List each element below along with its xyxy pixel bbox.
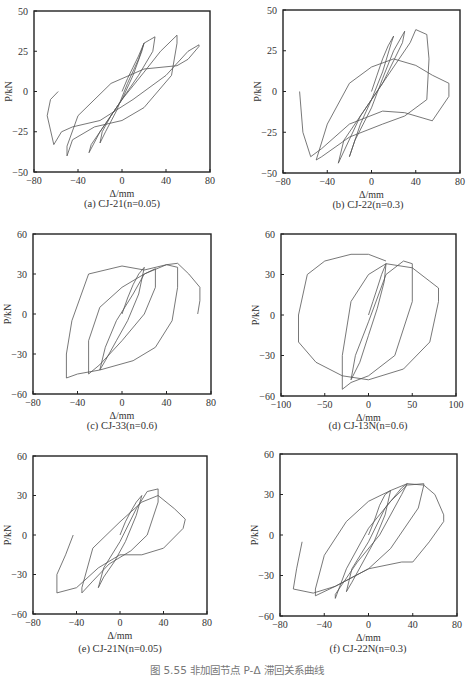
y-axis-label: P/kN: [2, 525, 13, 546]
y-axis-label: P/kN: [3, 81, 14, 102]
y-tick-label: −25: [12, 126, 28, 137]
y-tick-label: 25: [18, 46, 28, 57]
x-tick-label: 0: [120, 397, 125, 408]
x-tick-label: 0: [120, 175, 125, 186]
chart-plot: −80−4004080−60−3003060Δ/mmP/kN: [0, 440, 237, 660]
chart-plot: −100−50050100−60−3003060Δ/mmP/kN: [237, 220, 474, 442]
y-axis-label: P/kN: [250, 305, 261, 326]
chart-plot: −80−4004080−60−3003060Δ/mmP/kN: [0, 220, 237, 442]
chart-caption: (e) CJ-21N(n=0.05): [0, 643, 240, 654]
x-tick-label: 0: [366, 399, 371, 410]
y-tick-label: −25: [261, 127, 277, 138]
y-tick-label: 50: [267, 5, 277, 16]
x-tick-label: −80: [25, 617, 41, 628]
y-tick-label: −30: [11, 569, 27, 580]
x-tick-label: 0: [118, 617, 123, 628]
y-tick-label: −60: [11, 389, 27, 400]
chart-panel-f: −80−4004080−60−3003060Δ/mmP/kN (f) CJ-22…: [237, 440, 474, 660]
x-tick-label: 100: [449, 399, 464, 410]
chart-panel-e: −80−4004080−60−3003060Δ/mmP/kN (e) CJ-21…: [0, 440, 237, 660]
y-tick-label: −60: [11, 609, 27, 620]
chart-caption: (d) CJ-13N(n=0.6): [237, 420, 474, 431]
x-tick-label: 0: [369, 176, 374, 187]
figure-caption: 图 5.55 非加固节点 P-Δ 滞回关系曲线: [0, 662, 474, 677]
y-tick-label: 25: [267, 45, 277, 56]
x-tick-label: 80: [205, 175, 215, 186]
y-tick-label: 60: [17, 451, 27, 462]
hysteresis-curve: [66, 263, 200, 378]
chart-caption: (c) CJ-33(n=0.6): [0, 420, 244, 431]
y-tick-label: −30: [258, 570, 274, 581]
x-axis-label: Δ/mm: [356, 632, 381, 643]
y-tick-label: 30: [17, 269, 27, 280]
y-tick-label: −60: [258, 611, 274, 622]
y-tick-label: −50: [12, 167, 28, 178]
hysteresis-curve: [299, 254, 439, 389]
chart-caption: (a) CJ-21(n=0.05): [0, 198, 244, 209]
chart-panel-c: −80−4004080−60−3003060Δ/mmP/kN (c) CJ-33…: [0, 220, 237, 442]
hysteresis-curve: [300, 30, 449, 164]
chart-panel-a: −80−4004080−50−2502550Δ/mmP/kN (a) CJ-21…: [0, 0, 237, 218]
x-tick-label: −40: [69, 617, 85, 628]
x-tick-label: −50: [317, 399, 333, 410]
x-tick-label: −80: [275, 176, 291, 187]
x-tick-label: −80: [25, 397, 41, 408]
x-tick-label: 80: [206, 397, 216, 408]
chart-caption: (f) CJ-22N(n=0.3): [237, 643, 474, 654]
y-tick-label: 0: [22, 309, 27, 320]
x-tick-label: 40: [411, 176, 421, 187]
x-tick-label: 50: [407, 399, 417, 410]
y-tick-label: −50: [261, 168, 277, 179]
y-axis-label: P/kN: [252, 81, 263, 102]
x-tick-label: 80: [202, 617, 212, 628]
chart-plot: −80−4004080−50−2502550Δ/mmP/kN: [0, 0, 237, 218]
x-tick-label: 40: [162, 397, 172, 408]
chart-panel-d: −100−50050100−60−3003060Δ/mmP/kN (d) CJ-…: [237, 220, 474, 442]
x-tick-label: 40: [408, 619, 418, 630]
y-tick-label: 30: [17, 490, 27, 501]
x-tick-label: 40: [159, 617, 169, 628]
chart-plot: −80−4004080−50−2502550Δ/mmP/kN: [237, 0, 474, 218]
hysteresis-curve: [293, 484, 443, 599]
x-tick-label: −40: [70, 397, 86, 408]
y-axis-label: P/kN: [2, 304, 13, 325]
y-tick-label: −30: [259, 350, 275, 361]
x-tick-label: 0: [366, 619, 371, 630]
x-tick-label: −40: [316, 619, 332, 630]
x-tick-label: −80: [272, 619, 288, 630]
x-tick-label: 80: [452, 619, 462, 630]
y-tick-label: −60: [259, 391, 275, 402]
hysteresis-curve: [47, 35, 199, 156]
y-tick-label: 60: [17, 229, 27, 240]
chart-panel-b: −80−4004080−50−2502550Δ/mmP/kN (b) CJ-22…: [237, 0, 474, 218]
y-tick-label: 0: [22, 530, 27, 541]
x-tick-label: 80: [455, 176, 465, 187]
y-tick-label: 60: [264, 449, 274, 460]
chart-plot: −80−4004080−60−3003060Δ/mmP/kN: [237, 440, 474, 660]
hysteresis-curve: [57, 489, 185, 593]
x-tick-label: −80: [26, 175, 42, 186]
y-tick-label: 50: [18, 6, 28, 17]
x-tick-label: −40: [70, 175, 86, 186]
y-tick-label: 60: [265, 229, 275, 240]
y-axis-label: P/kN: [249, 525, 260, 546]
y-tick-label: 30: [264, 489, 274, 500]
y-tick-label: 0: [269, 530, 274, 541]
x-axis-label: Δ/mm: [108, 630, 133, 641]
chart-caption: (b) CJ-22(n=0.3): [237, 199, 474, 210]
x-tick-label: −40: [319, 176, 335, 187]
y-tick-label: 0: [23, 86, 28, 97]
y-tick-label: −30: [11, 349, 27, 360]
y-tick-label: 0: [270, 310, 275, 321]
x-tick-label: 40: [161, 175, 171, 186]
y-tick-label: 0: [272, 86, 277, 97]
y-tick-label: 30: [265, 269, 275, 280]
